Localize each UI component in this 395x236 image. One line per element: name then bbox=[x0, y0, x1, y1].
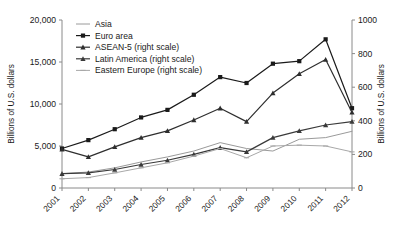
series-point bbox=[271, 62, 275, 66]
y-tick-label-right: 200 bbox=[358, 149, 373, 159]
y-tick-label-right: 1000 bbox=[358, 15, 377, 25]
legend-swatch-marker bbox=[81, 34, 85, 38]
legend-item-label: Latin America (right scale) bbox=[95, 54, 194, 64]
series-eastern-europe-right-scale bbox=[59, 145, 354, 179]
series-point bbox=[323, 57, 328, 62]
series-point bbox=[113, 127, 117, 131]
y-tick-label-left: 15,000 bbox=[30, 57, 57, 67]
y-tick-label-left: 10,000 bbox=[30, 99, 57, 109]
series-line bbox=[62, 122, 352, 174]
series-point bbox=[218, 75, 222, 79]
y-axis-title-right: Billions of U.S. dollars bbox=[377, 64, 386, 144]
line-chart: 05,00010,00015,00020,0000200400600800100… bbox=[0, 0, 395, 236]
y-tick-label-left: 20,000 bbox=[30, 15, 57, 25]
legend-item-label: Eastern Europe (right scale) bbox=[95, 65, 202, 75]
x-tick-label: 2008 bbox=[226, 193, 246, 213]
x-tick-label: 2006 bbox=[173, 193, 193, 213]
x-tick-label: 2007 bbox=[199, 193, 219, 213]
x-tick-label: 2001 bbox=[41, 193, 61, 213]
series-point bbox=[324, 37, 328, 41]
series-point bbox=[139, 115, 143, 119]
legend: AsiaEuro areaASEAN-5 (right scale)Latin … bbox=[76, 19, 202, 75]
y-tick-label-left: 5,000 bbox=[34, 141, 56, 151]
x-tick-label: 2002 bbox=[68, 193, 88, 213]
legend-item-label: Asia bbox=[95, 19, 112, 29]
series-point bbox=[297, 71, 302, 76]
chart-container: 05,00010,00015,00020,0000200400600800100… bbox=[0, 0, 395, 236]
x-tick-label: 2011 bbox=[305, 193, 325, 213]
x-tick-label: 2003 bbox=[94, 193, 114, 213]
y-tick-label-left: 0 bbox=[51, 183, 56, 193]
legend-item-label: ASEAN-5 (right scale) bbox=[95, 42, 179, 52]
series-point bbox=[349, 110, 354, 115]
x-tick-label: 2005 bbox=[147, 193, 167, 213]
y-tick-label-right: 400 bbox=[358, 116, 373, 126]
series-point bbox=[86, 138, 90, 142]
x-tick-label: 2004 bbox=[120, 193, 140, 213]
x-tick-label: 2012 bbox=[331, 193, 351, 213]
series-point bbox=[244, 81, 248, 85]
y-tick-label-right: 0 bbox=[358, 183, 363, 193]
y-tick-label-right: 600 bbox=[358, 82, 373, 92]
y-tick-label-right: 800 bbox=[358, 49, 373, 59]
series-point bbox=[165, 108, 169, 112]
x-tick-label: 2010 bbox=[278, 193, 298, 213]
x-tick-label: 2009 bbox=[252, 193, 272, 213]
series-point bbox=[218, 106, 223, 111]
y-axis-title-left: Billions of U.S. dollars bbox=[7, 64, 16, 144]
series-point bbox=[297, 59, 301, 63]
series-latin-america-right-scale bbox=[59, 119, 354, 176]
legend-item-label: Euro area bbox=[95, 31, 133, 41]
series-point bbox=[192, 93, 196, 97]
